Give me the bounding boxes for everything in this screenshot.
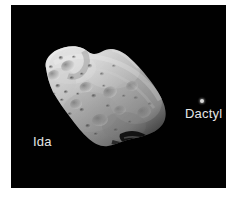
label-ida: Ida — [33, 135, 52, 149]
asteroid-ida-dactyl-figure: Ida Dactyl — [0, 0, 236, 208]
label-dactyl: Dactyl — [185, 107, 222, 121]
dactyl-moon — [200, 99, 204, 103]
photo-panel: Ida Dactyl — [11, 5, 226, 188]
